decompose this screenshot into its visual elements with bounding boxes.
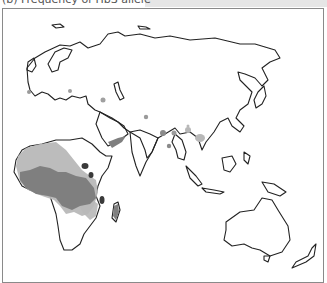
arctic-island bbox=[52, 24, 64, 28]
indochina bbox=[172, 134, 186, 160]
spot-india-south bbox=[167, 144, 171, 148]
borneo bbox=[222, 156, 236, 172]
spot-myanmar bbox=[195, 134, 205, 142]
scandinavia bbox=[48, 48, 72, 72]
high-frequency-spot bbox=[89, 172, 94, 178]
spot-spain bbox=[27, 90, 31, 94]
java-islands bbox=[202, 188, 224, 194]
spot-india-central bbox=[172, 131, 177, 136]
india bbox=[130, 130, 158, 176]
spot-bangladesh bbox=[185, 127, 191, 133]
japan bbox=[254, 86, 266, 108]
medium-frequency-arabia bbox=[108, 136, 126, 148]
british-isles bbox=[27, 58, 36, 72]
arctic-island-2 bbox=[138, 26, 150, 29]
australia bbox=[224, 198, 290, 256]
sumatra bbox=[186, 166, 202, 186]
philippines bbox=[244, 152, 250, 164]
new-guinea bbox=[262, 182, 286, 196]
tasmania bbox=[264, 256, 270, 262]
spot-middle-east bbox=[144, 115, 148, 119]
high-frequency-spot bbox=[82, 163, 89, 169]
caspian-sea bbox=[114, 82, 124, 100]
spot-india-west bbox=[160, 130, 166, 136]
spot-turkey bbox=[101, 98, 106, 103]
spot-east bbox=[187, 125, 190, 128]
spot-italy bbox=[68, 89, 72, 93]
high-frequency-spot bbox=[100, 196, 105, 204]
eurasia-north-coast bbox=[27, 32, 280, 158]
new-zealand bbox=[292, 244, 316, 268]
